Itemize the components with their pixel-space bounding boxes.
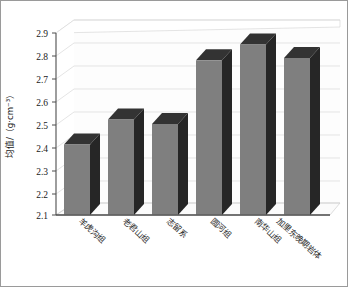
y-tick-label: 2.4: [36, 144, 48, 154]
y-tick-label: 2.8: [36, 52, 48, 62]
chart-canvas: 2.9 2.8 2.7 2.6 2.5 2.4 2.3 2.2 2.1 均值/（…: [0, 0, 348, 287]
bar-front-face: [196, 60, 222, 215]
bar-side-face: [178, 113, 188, 215]
bar-side-face: [90, 134, 100, 216]
bar-front-face: [240, 44, 266, 215]
bar-group: [284, 47, 320, 215]
bar-group: [240, 33, 276, 215]
bar-group: [152, 113, 188, 215]
bar-side-face: [310, 47, 320, 215]
y-tick-label: 2.9: [36, 29, 48, 39]
bar-side-face: [222, 49, 232, 215]
y-axis-tick-labels: 2.9 2.8 2.7 2.6 2.5 2.4 2.3 2.2 2.1: [36, 29, 48, 221]
bar-front-face: [64, 145, 90, 216]
bar-group: [108, 108, 144, 215]
y-tick-label: 2.7: [36, 75, 48, 85]
y-tick-label: 2.1: [36, 211, 48, 221]
bar-front-face: [108, 119, 134, 215]
y-axis-title: 均值/（g·cm⁻³）: [4, 90, 15, 158]
bar-group: [196, 49, 232, 215]
y-tick-label: 2.6: [36, 98, 48, 108]
y-tick-label: 2.5: [36, 121, 48, 131]
bar-front-face: [284, 58, 310, 215]
bar-side-face: [134, 108, 144, 215]
bar-group: [64, 134, 100, 216]
bar-chart: 2.9 2.8 2.7 2.6 2.5 2.4 2.3 2.2 2.1 均值/（…: [0, 0, 348, 287]
bar-side-face: [266, 33, 276, 215]
y-tick-label: 2.2: [36, 190, 48, 200]
bar-front-face: [152, 124, 178, 215]
y-tick-label: 2.3: [36, 167, 48, 177]
